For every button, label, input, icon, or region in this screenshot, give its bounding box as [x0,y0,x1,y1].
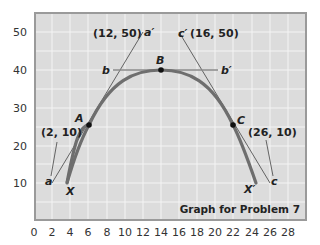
label-12-50: (12, 50) [93,27,142,40]
label-point-b: B [156,54,164,67]
label-a: a [45,175,52,188]
label-c-prime: c′ [178,27,188,40]
svg-text:16: 16 [172,226,186,239]
label-a-prime: a′ [144,26,154,39]
y-axis-ticks: 50 40 30 20 10 [13,26,27,190]
svg-text:0: 0 [31,226,38,239]
svg-text:20: 20 [208,226,222,239]
svg-text:10: 10 [118,226,132,239]
label-point-a: A [74,112,84,125]
chart: (12, 50) a′ c′ (16, 50) b b′ B A C (2, 1… [0,0,320,245]
x-axis-ticks: 0 2 4 6 8 10 12 14 16 18 20 22 24 26 28 [31,226,296,239]
svg-text:24: 24 [245,226,259,239]
label-x-prime: X′ [243,183,255,196]
svg-text:20: 20 [13,140,27,153]
svg-text:2: 2 [49,226,56,239]
svg-text:4: 4 [67,226,74,239]
label-c: c [271,175,278,188]
svg-text:28: 28 [281,226,295,239]
svg-text:30: 30 [13,102,27,115]
label-26-10: (26, 10) [248,126,297,139]
svg-text:40: 40 [13,64,27,77]
point-a [86,122,92,128]
svg-text:14: 14 [154,226,168,239]
svg-text:8: 8 [104,226,111,239]
svg-text:50: 50 [13,26,27,39]
label-16-50: (16, 50) [190,27,239,40]
svg-text:6: 6 [85,226,92,239]
chart-caption: Graph for Problem 7 [180,203,300,215]
label-2-10: (2, 10) [41,126,82,139]
label-b-prime: b′ [221,64,232,77]
svg-text:26: 26 [263,226,277,239]
label-point-c: C [237,114,245,127]
svg-text:10: 10 [13,177,27,190]
svg-text:18: 18 [190,226,204,239]
point-b [158,67,164,73]
svg-text:22: 22 [226,226,240,239]
label-b: b [102,64,110,77]
svg-text:12: 12 [136,226,150,239]
label-x: X [65,185,75,198]
point-c [230,122,236,128]
